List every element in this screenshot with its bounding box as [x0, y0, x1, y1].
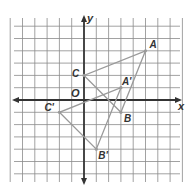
- y-axis-down-arrow-icon: [81, 178, 87, 185]
- label-B': B': [98, 150, 108, 161]
- vertex-A: [144, 49, 147, 52]
- y-axis-label: y: [86, 12, 94, 24]
- label-C: C: [72, 68, 80, 79]
- vertex-B: [119, 111, 122, 114]
- label-A': A': [121, 76, 132, 87]
- coordinate-plane: yxOABCA'B'C': [0, 0, 194, 194]
- vertex-C': [58, 111, 61, 114]
- label-B: B: [124, 113, 131, 124]
- point-labels: yxOABCA'B'C': [44, 12, 185, 161]
- x-axis-left-arrow-icon: [12, 97, 19, 103]
- label-C': C': [44, 102, 54, 113]
- vertex-C: [82, 74, 85, 77]
- triangle-A'B'C': [59, 88, 121, 150]
- label-A: A: [149, 39, 157, 50]
- origin-label: O: [71, 87, 80, 99]
- x-axis-label: x: [177, 100, 185, 112]
